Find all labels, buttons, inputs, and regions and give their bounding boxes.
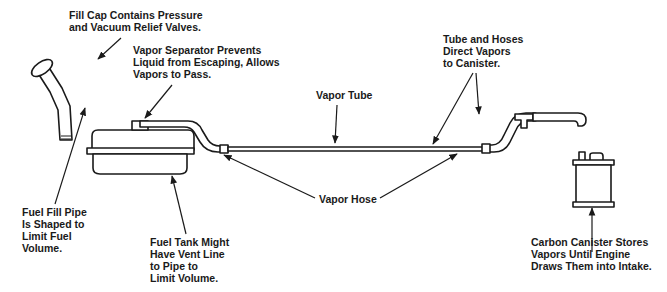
fuel-tank (87, 130, 194, 174)
vapor-hose-left-end (220, 145, 228, 153)
carbon-canister (573, 152, 614, 207)
arrow-vapor-tube (335, 105, 337, 143)
vapor-hose-right-end (482, 144, 490, 153)
arrow-vapor-separator (145, 85, 172, 118)
arrow-tube-hoses-2 (476, 73, 479, 114)
arrow-tube-hoses-1 (433, 73, 473, 144)
label-carbon-canister: Carbon Canister Stores Vapors Until Engi… (531, 236, 652, 272)
label-fuel-fill-pipe: Fuel Fill Pipe Is Shaped to Limit Fuel V… (22, 206, 87, 254)
arrow-vapor-hose-right (380, 154, 457, 198)
label-fuel-tank: Fuel Tank Might Have Vent Line to Pipe t… (150, 236, 229, 284)
evap-system-diagram: Fill Cap Contains Pressure and Vacuum Re… (0, 0, 667, 292)
vapor-tube (228, 147, 484, 151)
label-vapor-tube: Vapor Tube (316, 89, 372, 101)
label-fill-cap: Fill Cap Contains Pressure and Vacuum Re… (69, 9, 203, 33)
arrow-fill-cap (98, 38, 121, 59)
arrow-fuel-tank (172, 176, 186, 234)
fuel-fill-pipe (36, 66, 72, 140)
label-vapor-hose: Vapor Hose (319, 193, 377, 205)
label-tube-and-hoses: Tube and Hoses Direct Vapors to Canister… (443, 33, 523, 69)
arrow-vapor-hose-left (224, 155, 315, 198)
canister-hose (533, 113, 586, 126)
label-vapor-separator: Vapor Separator Prevents Liquid from Esc… (133, 44, 280, 80)
